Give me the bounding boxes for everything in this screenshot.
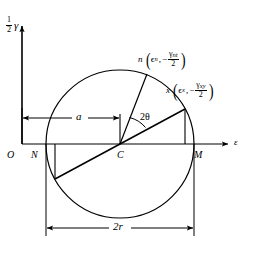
point-n-comma: , [159, 55, 161, 64]
vertical-axis-label: 1 2 γ [6, 16, 18, 34]
point-x-fraction-numerator: γxy [195, 81, 206, 90]
point-x-open-paren: ( [173, 81, 178, 100]
angle-label-2theta: 2θ [140, 112, 150, 122]
point-n-close-paren: ) [181, 50, 186, 69]
point-n-name: n [138, 55, 143, 64]
half-fraction-denominator: 2 [6, 25, 12, 34]
point-n-fraction-numerator: γnt [168, 50, 179, 59]
origin-label: O [7, 150, 14, 160]
mohr-circle-figure: 1 2 γ ε O N C M 2θ a 2r n ( ϵn , − γnt 2… [0, 0, 253, 253]
radius-line-n [120, 74, 147, 144]
point-n-epsilon-subscript: n [154, 56, 157, 63]
point-x-close-paren: ) [208, 81, 213, 100]
point-x-epsilon-subscript: x [182, 87, 185, 94]
point-n-open-paren: ( [145, 50, 150, 69]
point-n-fraction: γnt 2 [168, 50, 179, 69]
mohr-circle-drawing [0, 0, 253, 253]
dimension-label-a: a [76, 111, 82, 122]
point-label-center: C [117, 150, 124, 160]
point-x-minus: − [189, 86, 194, 95]
point-n-annotation: n ( ϵn , − γnt 2 ) [138, 49, 186, 69]
point-x-comma: , [186, 86, 188, 95]
dimension-label-2r: 2r [113, 221, 123, 232]
point-n-gamma-subscript: nt [173, 52, 178, 59]
gamma-symbol: γ [14, 19, 18, 31]
point-x-gamma-subscript: xy [200, 83, 206, 90]
point-n-minus: − [162, 55, 167, 64]
half-fraction-numerator: 1 [6, 16, 12, 24]
point-n-fraction-denominator: 2 [168, 59, 179, 68]
horizontal-axis-label: ε [234, 138, 238, 147]
point-x-name: x [166, 86, 170, 95]
point-x-annotation: x ( ϵx , − γxy 2 ) [166, 80, 214, 100]
half-fraction: 1 2 [6, 16, 12, 34]
point-label-m-intercept: M [194, 150, 202, 160]
point-x-fraction: γxy 2 [195, 81, 206, 100]
point-label-n-intercept: N [31, 150, 38, 160]
point-x-fraction-denominator: 2 [195, 90, 206, 99]
